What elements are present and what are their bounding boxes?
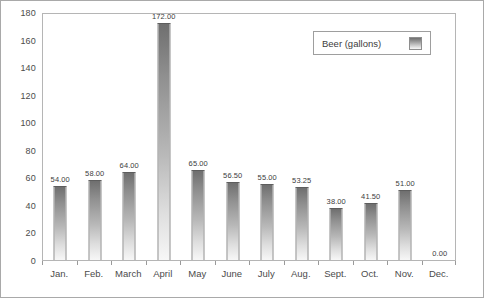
x-tick-mark: [249, 261, 250, 265]
bar-group: 172.00: [157, 12, 170, 260]
bar-chart-figure: 020406080100120140160180 54.0058.0064.00…: [0, 0, 484, 298]
bar-value-label: 38.00: [327, 197, 346, 206]
bar-group: 53.25: [295, 12, 308, 260]
bar[interactable]: [330, 208, 343, 260]
bar-value-label: 55.00: [258, 173, 277, 182]
legend-swatch-icon: [409, 37, 422, 50]
x-tick-mark: [284, 261, 285, 265]
y-tick-label: 60: [26, 173, 36, 183]
bar-value-label: 53.25: [292, 176, 311, 185]
x-tick-mark: [111, 261, 112, 265]
bar-group: 54.00: [54, 12, 67, 260]
x-tick-label: Jan.: [50, 268, 68, 279]
bar-value-label: 172.00: [152, 12, 176, 21]
legend-label: Beer (gallons): [322, 38, 381, 49]
bar[interactable]: [295, 187, 308, 260]
bar-group: 65.00: [192, 12, 205, 260]
bar-value-label: 65.00: [189, 159, 208, 168]
bar-value-label: 0.00: [432, 249, 447, 258]
bar[interactable]: [54, 186, 67, 260]
x-tick-label: April: [153, 268, 172, 279]
y-tick-label: 100: [20, 118, 36, 128]
x-tick-mark: [42, 261, 43, 265]
bar-group: 56.50: [226, 12, 239, 260]
x-tick-mark: [387, 261, 388, 265]
x-tick-label: Oct.: [361, 268, 378, 279]
bar-group: 0.00: [433, 12, 446, 260]
x-axis: Jan.Feb.MarchAprilMayJuneJulyAug.Sept.Oc…: [42, 264, 456, 280]
bar-value-label: 64.00: [120, 161, 139, 170]
bar[interactable]: [261, 184, 274, 260]
bar[interactable]: [123, 172, 136, 260]
y-tick-label: 40: [26, 201, 36, 211]
x-tick-label: May: [188, 268, 206, 279]
bar[interactable]: [192, 170, 205, 260]
bar-group: 55.00: [261, 12, 274, 260]
x-tick-label: Aug.: [291, 268, 311, 279]
x-tick-mark: [146, 261, 147, 265]
bar-group: 58.00: [88, 12, 101, 260]
x-tick-mark: [215, 261, 216, 265]
bar-value-label: 56.50: [223, 171, 242, 180]
x-tick-mark: [455, 261, 456, 265]
x-tick-label: July: [258, 268, 275, 279]
x-tick-mark: [77, 261, 78, 265]
x-tick-mark: [180, 261, 181, 265]
bar-value-label: 41.50: [361, 192, 380, 201]
y-tick-label: 20: [26, 228, 36, 238]
bar[interactable]: [226, 182, 239, 260]
bar[interactable]: [157, 23, 170, 260]
y-tick-label: 140: [20, 63, 36, 73]
bar-value-label: 51.00: [396, 179, 415, 188]
x-tick-label: Feb.: [84, 268, 103, 279]
x-tick-mark: [353, 261, 354, 265]
y-tick-label: 0: [31, 256, 36, 266]
bar[interactable]: [399, 190, 412, 260]
x-tick-label: Sept.: [324, 268, 346, 279]
bar[interactable]: [88, 180, 101, 260]
bar[interactable]: [364, 203, 377, 260]
x-tick-label: March: [115, 268, 141, 279]
y-tick-label: 80: [26, 146, 36, 156]
bar-value-label: 58.00: [85, 169, 104, 178]
x-tick-mark: [422, 261, 423, 265]
y-tick-label: 180: [20, 8, 36, 18]
y-tick-label: 120: [20, 91, 36, 101]
bar-value-label: 54.00: [51, 175, 70, 184]
y-tick-label: 160: [20, 36, 36, 46]
bar-group: 64.00: [123, 12, 136, 260]
x-tick-mark: [318, 261, 319, 265]
chart-legend: Beer (gallons): [313, 31, 431, 55]
x-tick-label: June: [221, 268, 242, 279]
x-tick-label: Nov.: [395, 268, 414, 279]
y-axis: 020406080100120140160180: [1, 13, 40, 261]
x-tick-label: Dec.: [429, 268, 449, 279]
